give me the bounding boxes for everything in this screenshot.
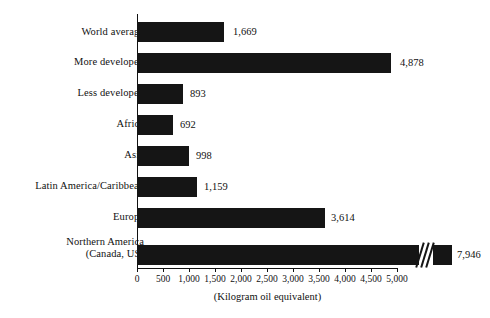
category-label-world-average: World average <box>81 26 144 38</box>
x-tick-label: 3,000 <box>282 274 303 285</box>
bar-asia <box>137 146 189 166</box>
bar-africa <box>137 115 173 135</box>
value-label-more-developed: 4,878 <box>400 53 424 73</box>
x-tick <box>293 268 294 272</box>
x-tick <box>189 268 190 272</box>
x-tick <box>267 268 268 272</box>
bar-more-developed <box>137 53 391 73</box>
value-label-latin-america-caribbean: 1,159 <box>204 177 228 197</box>
bar-latin-america-caribbean <box>137 177 197 197</box>
category-label-more-developed: More developed <box>74 56 144 68</box>
x-tick <box>371 268 372 272</box>
x-tick <box>241 268 242 272</box>
x-tick-label: 1,000 <box>178 274 199 285</box>
x-tick-label: 5,000 <box>386 274 407 285</box>
bar-northern-america-segment-2 <box>433 245 452 265</box>
bar-less-developed <box>137 84 183 104</box>
x-tick <box>345 268 346 272</box>
x-tick <box>319 268 320 272</box>
x-tick-label: 2,000 <box>230 274 251 285</box>
category-label-northern-america: Northern America (Canada, US) <box>66 236 144 259</box>
x-tick-label: 500 <box>156 274 170 285</box>
x-tick-label: 3,500 <box>308 274 329 285</box>
x-tick <box>397 268 398 272</box>
x-tick <box>137 268 138 272</box>
value-label-northern-america: 7,946 <box>457 245 481 265</box>
category-label-latin-america-caribbean: Latin America/Caribbean <box>35 180 144 192</box>
x-axis-caption: (Kilogram oil equivalent) <box>137 291 398 302</box>
value-label-less-developed: 893 <box>190 84 206 104</box>
x-tick-label: 0 <box>135 274 140 285</box>
x-tick-label: 4,000 <box>334 274 355 285</box>
category-label-less-developed: Less developed <box>78 87 144 99</box>
bar-northern-america-segment-1 <box>137 245 419 265</box>
bar-world-average <box>137 22 224 42</box>
value-label-world-average: 1,669 <box>233 22 257 42</box>
value-label-europe: 3,614 <box>331 208 355 228</box>
x-tick-label: 2,500 <box>256 274 277 285</box>
x-tick <box>215 268 216 272</box>
value-label-asia: 998 <box>196 146 212 166</box>
value-label-africa: 692 <box>180 115 196 135</box>
bar-europe <box>137 208 325 228</box>
x-tick-label: 1,500 <box>204 274 225 285</box>
x-tick <box>163 268 164 272</box>
energy-consumption-bar-chart: World average More developed Less develo… <box>0 0 490 318</box>
x-tick-label: 4,500 <box>360 274 381 285</box>
